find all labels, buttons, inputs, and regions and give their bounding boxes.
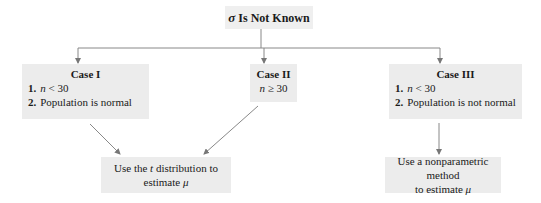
case-1-node: Case I 1.n < 30 2.Population is normal: [22, 64, 149, 119]
result-2-line-1: Use a nonparametric method: [385, 154, 501, 182]
result-1-line-1: Use the t distribution to: [114, 161, 218, 175]
result-t-distribution-node: Use the t distribution to estimate μ: [101, 157, 231, 193]
case-3-node: Case III 1.n < 30 2.Population is not no…: [389, 64, 522, 119]
root-node-label: Is Not Known: [238, 11, 309, 25]
result-nonparametric-node: Use a nonparametric method to estimate μ: [385, 157, 501, 193]
case-3-condition-2: 2.Population is not normal: [395, 95, 516, 109]
sigma-symbol: σ: [228, 11, 235, 25]
case-3-heading: Case III: [395, 67, 516, 81]
arrow-case1-to-result1: [90, 124, 120, 154]
case-1-heading: Case I: [28, 67, 143, 81]
case-2-heading: Case II: [252, 67, 295, 81]
result-1-line-2: estimate μ: [144, 175, 189, 189]
case-1-condition-1: 1.n < 30: [28, 81, 143, 95]
root-node-sigma-not-known: σ Is Not Known: [225, 6, 313, 29]
case-1-condition-2: 2.Population is normal: [28, 95, 143, 109]
case-2-condition: n ≥ 30: [252, 81, 295, 95]
arrow-case2-to-result1: [204, 106, 258, 154]
result-2-line-2: to estimate μ: [415, 182, 471, 196]
case-2-node: Case II n ≥ 30: [250, 64, 297, 102]
case-3-condition-1: 1.n < 30: [395, 81, 516, 95]
